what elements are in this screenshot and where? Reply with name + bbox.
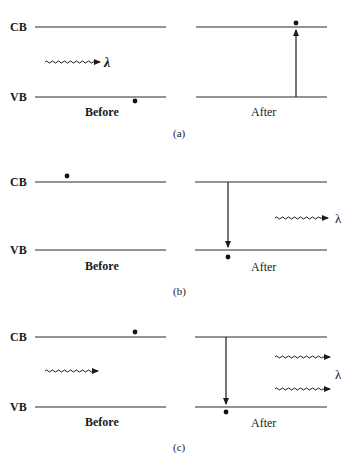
electron-icon (133, 330, 138, 335)
energy-band-diagram: CB VB λ Before After (a) CB VB (0, 0, 359, 465)
electron-icon (133, 99, 138, 104)
panel-b-after: λ After (195, 182, 342, 274)
panel-a-after: After (196, 21, 327, 119)
electron-icon (294, 21, 299, 26)
incoming-photon-icon (45, 370, 98, 372)
vb-label: VB (10, 90, 27, 104)
wavelength-label: λ (335, 367, 342, 382)
emitted-photon-icon (275, 356, 330, 358)
incoming-photon-icon (45, 61, 100, 63)
panel-a: CB VB λ Before After (a) (10, 20, 327, 140)
before-caption: Before (85, 259, 119, 273)
emitted-photon-icon (275, 217, 328, 219)
vb-label: VB (10, 400, 27, 414)
stimulated-photon-icon (275, 388, 330, 390)
after-caption: After (251, 416, 276, 430)
panel-b-before: CB VB Before (10, 174, 166, 273)
wavelength-label: λ (103, 55, 110, 70)
panel-label-b: (b) (173, 285, 186, 298)
wavelength-label: λ (335, 211, 342, 226)
panel-a-before: CB VB λ Before (10, 20, 166, 119)
panel-c-before: CB VB Before (10, 330, 166, 429)
cb-label: CB (10, 330, 27, 344)
panel-c: CB VB Before λ After (c) (10, 330, 342, 454)
vb-label: VB (10, 243, 27, 257)
after-caption: After (251, 260, 276, 274)
cb-label: CB (10, 20, 27, 34)
panel-c-after: λ After (195, 337, 342, 430)
panel-label-a: (a) (173, 127, 186, 140)
electron-icon (226, 255, 231, 260)
panel-label-c: (c) (173, 441, 186, 454)
electron-icon (65, 174, 70, 179)
cb-label: CB (10, 175, 27, 189)
before-caption: Before (85, 105, 119, 119)
panel-b: CB VB Before λ After (b) (10, 174, 342, 298)
after-caption: After (251, 105, 276, 119)
electron-icon (224, 410, 229, 415)
before-caption: Before (85, 415, 119, 429)
